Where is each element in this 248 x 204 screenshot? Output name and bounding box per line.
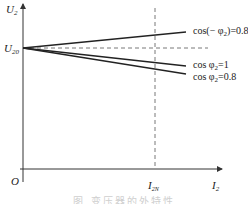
series-inductive-line [23, 48, 186, 74]
series-capacitive-line [23, 32, 186, 48]
series-resistive-line [23, 48, 186, 66]
origin-label: O [11, 175, 19, 187]
transformer-external-characteristic-chart: U2 I2 O U20 I2N cos(− φ2)=0.8 cos φ2=1 c… [0, 0, 248, 204]
series-inductive-label: cos φ2=0.8 [193, 71, 236, 84]
series-capacitive-label: cos(− φ2)=0.8 [193, 25, 248, 38]
x-axis-label: I2 [211, 179, 220, 193]
i2n-tick-label: I2N [147, 179, 160, 192]
y-axis-label: U2 [6, 3, 18, 17]
u20-tick-label: U20 [4, 42, 19, 56]
figure-caption: 图 变压器的外特性 [0, 193, 248, 204]
